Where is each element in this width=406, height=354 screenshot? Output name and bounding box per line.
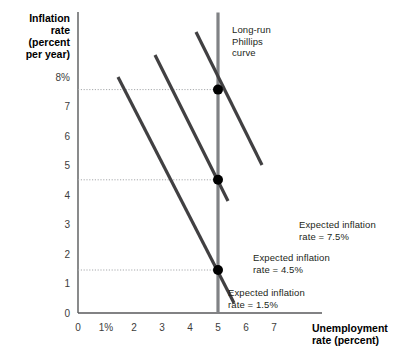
y-axis-title-line-1: Inflation [4,12,70,24]
y-tick-label-7: 7 [44,101,70,112]
expected-45-line-2: rate = 4.5% [253,264,357,276]
expected-15-line-2: rate = 1.5% [228,299,332,311]
y-tick-label-8: 8% [44,72,70,83]
expected-inflation-75-label: Expected inflation rate = 7.5% [299,219,403,242]
x-axis-title-line-2: rate (percent) [312,334,406,346]
x-axis-title-line-1: Unemployment [312,322,406,334]
data-point-7-5 [213,85,223,95]
y-tick-label-1: 1 [44,278,70,289]
x-tick-label-3: 3 [149,322,175,333]
x-tick-label-0: 0 [65,322,91,333]
x-tick-label-6: 6 [233,322,259,333]
data-point-1-5 [213,265,223,275]
y-tick-label-2: 2 [44,249,70,260]
long-run-label-line-2: Phillips [232,36,302,48]
long-run-phillips-curve-label: Long-run Phillips curve [232,24,302,59]
x-tick-label-2: 2 [121,322,147,333]
expected-45-line-1: Expected inflation [253,252,357,264]
expected-15-line-1: Expected inflation [228,287,332,299]
long-run-label-line-3: curve [232,47,302,59]
y-tick-label-5: 5 [44,160,70,171]
x-axis-title: Unemployment rate (percent) [312,322,406,346]
data-point-4-5 [213,175,223,185]
expected-75-line-2: rate = 7.5% [299,231,403,243]
x-tick-label-5: 5 [205,322,231,333]
y-tick-label-0: 0 [44,308,70,319]
y-tick-label-6: 6 [44,131,70,142]
y-axis-title-line-2: rate [4,24,70,36]
y-tick-label-3: 3 [44,219,70,230]
y-axis-title-line-3: (percent [4,36,70,48]
expected-inflation-45-label: Expected inflation rate = 4.5% [253,252,357,275]
x-tick-label-7: 7 [261,322,287,333]
y-axis-title: Inflation rate (percent per year) [4,12,70,60]
x-tick-label-4: 4 [177,322,203,333]
phillips-curve-figure: Inflation rate (percent per year) Unempl… [0,0,406,354]
y-axis-title-line-4: per year) [4,48,70,60]
expected-inflation-15-label: Expected inflation rate = 1.5% [228,287,332,310]
long-run-label-line-1: Long-run [232,24,302,36]
expected-75-line-1: Expected inflation [299,219,403,231]
x-tick-label-1: 1% [93,322,119,333]
y-tick-label-4: 4 [44,190,70,201]
